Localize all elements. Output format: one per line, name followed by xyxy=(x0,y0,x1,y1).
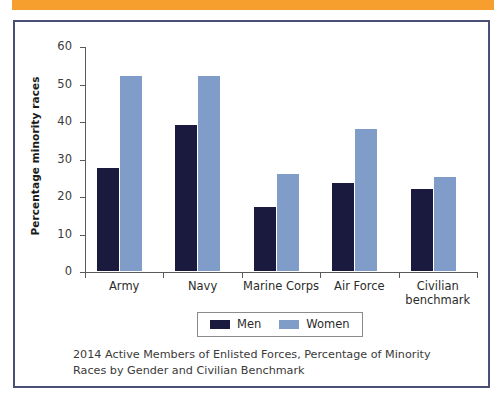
category-label: Army xyxy=(85,279,163,293)
figure-caption: 2014 Active Members of Enlisted Forces, … xyxy=(73,347,463,378)
chart-legend: MenWomen xyxy=(197,312,363,337)
bar-women xyxy=(434,177,456,271)
y-axis-title-label: Percentage minority races xyxy=(29,56,41,256)
category-label: Navy xyxy=(163,279,241,293)
bar-group xyxy=(163,46,241,271)
top-orange-banner xyxy=(12,0,494,10)
legend-label: Women xyxy=(306,317,349,331)
category-label: Air Force xyxy=(320,279,398,293)
y-axis-tick-label: 40 xyxy=(57,114,72,128)
bar-women xyxy=(120,76,142,271)
y-axis-tick-label: 10 xyxy=(57,227,72,241)
legend-swatch-icon xyxy=(279,320,299,329)
bar-women xyxy=(277,174,299,272)
y-axis-title: Percentage minority races xyxy=(29,0,41,60)
y-axis-tick-label: 0 xyxy=(65,264,72,278)
x-axis-tick xyxy=(320,272,321,278)
bar-women xyxy=(198,76,220,271)
y-axis-tick-label: 60 xyxy=(57,39,72,53)
legend-item: Men xyxy=(210,317,261,331)
y-axis-tick-label: 20 xyxy=(57,189,72,203)
bar-men xyxy=(175,125,197,271)
legend-swatch-icon xyxy=(210,320,230,329)
plot-area: 0102030405060 ArmyNavyMarine CorpsAir Fo… xyxy=(85,47,477,272)
y-axis-tick-label: 50 xyxy=(57,77,72,91)
x-axis-tick xyxy=(242,272,243,278)
category-label: Marine Corps xyxy=(242,279,320,293)
figure-frame: Percentage minority races 0102030405060 … xyxy=(13,20,490,388)
bar-men xyxy=(411,189,433,272)
bar-men xyxy=(254,207,276,271)
x-axis-tick xyxy=(163,272,164,278)
bar-women xyxy=(355,129,377,272)
x-axis-tick xyxy=(85,272,86,278)
x-axis-tick xyxy=(477,272,478,278)
legend-label: Men xyxy=(237,317,261,331)
category-label: Civilian benchmark xyxy=(399,279,477,307)
bar-men xyxy=(97,168,119,271)
legend-item: Women xyxy=(279,317,349,331)
y-axis-tick-label: 30 xyxy=(57,152,72,166)
bar-group xyxy=(320,46,398,271)
bar-group xyxy=(399,46,477,271)
bar-group xyxy=(242,46,320,271)
x-axis-line xyxy=(85,272,477,273)
x-axis-tick xyxy=(399,272,400,278)
bar-group xyxy=(85,46,163,271)
bar-men xyxy=(332,183,354,271)
